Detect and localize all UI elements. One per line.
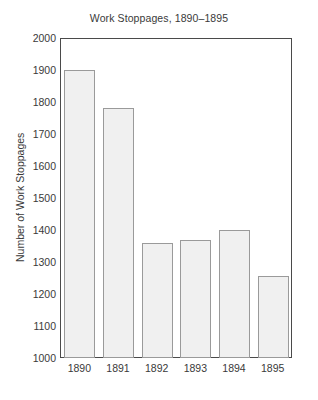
x-axis-tick-1891: 1891 — [106, 362, 129, 374]
y-axis-tick-1400: 1400 — [4, 224, 56, 236]
x-axis-tick-1892: 1892 — [145, 362, 168, 374]
y-axis-tick-1700: 1700 — [4, 128, 56, 140]
x-axis-tick-1893: 1893 — [184, 362, 207, 374]
y-axis-tick-1500: 1500 — [4, 192, 56, 204]
bar-1890 — [64, 70, 95, 358]
y-axis-tick-1100: 1100 — [4, 320, 56, 332]
x-axis-tick-1890: 1890 — [68, 362, 91, 374]
x-axis-tick-1894: 1894 — [222, 362, 245, 374]
y-axis-tick-1900: 1900 — [4, 64, 56, 76]
y-axis-tick-1600: 1600 — [4, 160, 56, 172]
x-axis-tick-labels: 189018911892189318941895 — [60, 362, 292, 382]
bar-1895 — [258, 276, 289, 358]
y-axis-tick-labels: 1000110012001300140015001600170018001900… — [0, 0, 56, 400]
bar-1894 — [219, 230, 250, 358]
bar-1891 — [103, 108, 134, 358]
y-axis-tick-1000: 1000 — [4, 352, 56, 364]
bar-series — [60, 38, 292, 358]
y-axis-tick-1800: 1800 — [4, 96, 56, 108]
y-axis-tick-1200: 1200 — [4, 288, 56, 300]
bar-1893 — [180, 240, 211, 358]
y-axis-tick-1300: 1300 — [4, 256, 56, 268]
y-axis-tick-2000: 2000 — [4, 32, 56, 44]
bar-chart: Work Stoppages, 1890–1895 Number of Work… — [0, 0, 318, 400]
bar-1892 — [142, 243, 173, 358]
x-axis-tick-1895: 1895 — [261, 362, 284, 374]
